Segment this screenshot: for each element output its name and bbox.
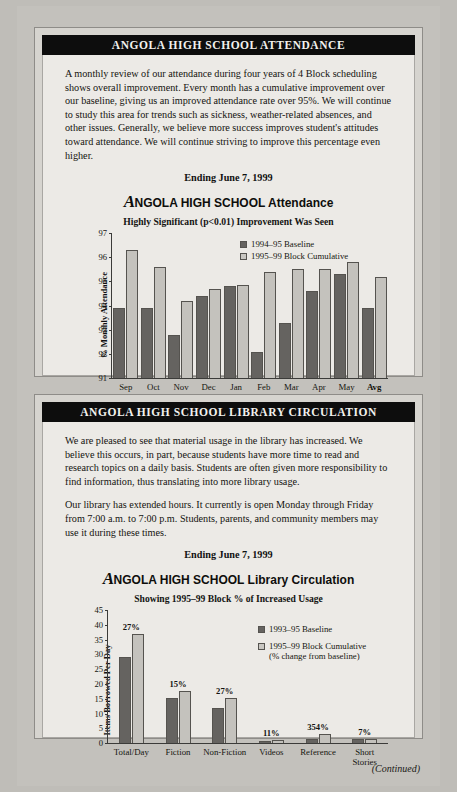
bar [319,269,331,378]
y-axis-tick: 96 [98,252,112,262]
bar [375,277,387,379]
bar-group: 15%Fiction [155,610,202,743]
legend-swatch [240,253,247,260]
library-legend: 1993–95 Baseline1995–99 Block Cumulative… [258,624,366,667]
x-axis-tick: Nov [167,378,195,392]
bar [179,691,191,743]
bar-value-label: 27% [216,686,233,696]
bar [224,286,236,378]
bar [113,308,125,378]
bar [166,698,178,743]
attendance-ending-date: Ending June 7, 1999 [65,172,392,183]
y-axis-tick: 20 [94,679,108,689]
bar [126,250,138,378]
y-axis-tick: 40 [94,620,108,630]
attendance-plot-area: SepOctNovDecJanFebMarAprMayAvg 1994–95 B… [111,233,388,379]
bar [132,634,144,743]
x-axis-tick: Jan [222,378,250,392]
legend-item: 1994–95 Baseline [240,239,348,250]
bar [306,291,318,378]
bar-group: Dec [195,233,223,378]
attendance-chart: % Monthly Attendance SepOctNovDecJanFebM… [65,229,392,401]
x-axis-tick: Fiction [155,743,202,757]
y-axis-tick: 93 [98,325,112,335]
legend-item: 1993–95 Baseline [258,624,366,635]
attendance-paragraph: A monthly review of our attendance durin… [65,67,392,162]
bar-value-label: 7% [358,727,371,737]
attendance-legend: 1994–95 Baseline1995–99 Block Cumulative [240,239,348,261]
y-axis-tick: 0 [99,738,108,748]
document-page: ANGOLA HIGH SCHOOL ATTENDANCE A monthly … [17,6,440,786]
bar [181,301,193,378]
legend-swatch [258,643,265,650]
attendance-chart-subtitle: Highly Significant (p<0.01) Improvement … [65,216,392,227]
library-body: We are pleased to see that material usag… [42,422,415,738]
x-axis-tick: Avg [360,378,388,392]
legend-label: 1994–95 Baseline [251,239,314,250]
y-axis-tick: 95 [98,276,112,286]
y-axis-tick: 25 [94,664,108,674]
bar-group: Nov [167,233,195,378]
legend-item: 1995–99 Block Cumulative [240,251,348,262]
bar [279,323,291,379]
x-axis-tick: Sep [112,378,140,392]
x-axis-tick: Mar [278,378,306,392]
bar [141,308,153,378]
bar [334,274,346,378]
x-axis-tick: Videos [248,743,295,757]
library-header-bar: ANGOLA HIGH SCHOOL LIBRARY CIRCULATION [42,402,415,422]
y-axis-tick: 10 [94,709,108,719]
x-axis-tick: May [333,378,361,392]
x-axis-tick: Apr [305,378,333,392]
bar [212,708,224,743]
y-axis-tick: 15 [94,694,108,704]
bar [196,296,208,378]
attendance-header-title: ANGOLA HIGH SCHOOL ATTENDANCE [112,39,345,51]
bar [154,267,166,378]
bar [237,285,249,378]
x-axis-tick: Non-Fiction [201,743,248,757]
bar-value-label: 15% [169,679,186,689]
bar-value-label: 27% [123,622,140,632]
attendance-header-bar: ANGOLA HIGH SCHOOL ATTENDANCE [42,35,415,55]
library-plot-area: 27%Total/Day15%Fiction27%Non-Fiction11%V… [107,610,388,744]
library-paragraph-1: We are pleased to see that material usag… [65,434,392,488]
bar [119,657,131,743]
bar [168,335,180,379]
library-chart-subtitle: Showing 1995–99 Block % of Increased Usa… [65,593,392,604]
bar-group: Sep [112,233,140,378]
bar-value-label: 11% [263,728,280,738]
bar [347,262,359,378]
bar [319,734,331,743]
legend-item: 1995–99 Block Cumulative(% change from b… [258,641,366,662]
y-axis-tick: 94 [98,301,112,311]
y-axis-tick: 35 [94,635,108,645]
bar-group: 27%Non-Fiction [201,610,248,743]
attendance-body: A monthly review of our attendance durin… [42,55,415,376]
legend-swatch [258,626,265,633]
bar [225,698,237,743]
attendance-title-rest: NGOLA HIGH SCHOOL Attendance [134,196,333,210]
legend-swatch [240,241,247,248]
bar [251,352,263,379]
attendance-chart-title: ANGOLA HIGH SCHOOL Attendance [65,192,392,212]
bar-group: Oct [140,233,168,378]
y-axis-tick: 45 [94,605,108,615]
library-title-initial: A [103,569,114,588]
x-axis-tick: Feb [250,378,278,392]
x-axis-tick: Total/Day [108,743,155,757]
y-axis-tick: 91 [98,373,112,383]
y-axis-tick: 5 [99,723,108,733]
library-paragraph-2: Our library has extended hours. It curre… [65,498,392,539]
bar-group: 27%Total/Day [108,610,155,743]
legend-label: 1995–99 Block Cumulative(% change from b… [269,641,366,662]
y-axis-tick: 30 [94,649,108,659]
x-axis-tick: Oct [140,378,168,392]
x-axis-tick: Dec [195,378,223,392]
y-axis-tick: 97 [98,228,112,238]
y-axis-tick: 92 [98,349,112,359]
attendance-title-initial: A [124,192,135,211]
x-axis-tick: Reference [295,743,342,757]
legend-label: 1995–99 Block Cumulative [251,251,348,262]
library-header-title: ANGOLA HIGH SCHOOL LIBRARY CIRCULATION [80,406,377,418]
